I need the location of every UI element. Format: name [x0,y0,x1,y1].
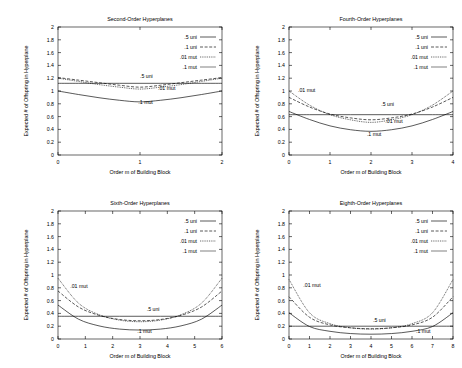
x-tick-label: 1 [329,159,332,165]
plot-frame [58,27,222,155]
x-axis-label: Order m of Building Block [340,353,401,359]
curve-annotation: .5 uni [140,73,153,79]
y-tick-label: 1 [282,88,285,94]
x-axis-label: Order m of Building Block [109,169,170,175]
y-axis-label: Expected # of Offspring in Hyperplane [254,46,260,137]
y-tick-label: 1.8 [278,221,285,227]
x-tick-label: 2 [111,343,114,349]
legend-label: .5 uni [184,218,197,224]
y-tick-label: 0.6 [278,298,285,304]
y-tick-label: 0 [51,152,54,158]
y-tick-label: 1.2 [47,75,54,81]
x-axis-label: Order m of Building Block [109,353,170,359]
panel-eighth-order: Eighth-Order Hyperplanes00.20.40.60.811.… [231,184,462,368]
legend-label: .1 mut [414,64,429,70]
x-tick-label: 4 [166,343,169,349]
chart-title: Fourth-Order Hyperplanes [340,16,403,22]
x-tick-label: 4 [452,159,455,165]
x-tick-label: 1 [139,159,142,165]
plot-frame [58,211,222,339]
curve-annotation: .1 mut [138,99,153,105]
legend-label: .1 uni [184,44,197,50]
y-tick-label: 2 [51,24,54,30]
curve-annotation: .01 mut [70,283,88,289]
x-tick-label: 8 [452,343,455,349]
curve-annotation: .5 uni [147,306,160,312]
y-tick-label: 0.4 [47,310,54,316]
legend-label: .01 mut [411,238,429,244]
series-line [289,97,453,119]
figure-multi-panel-chart: Second-Order Hyperplanes00.20.40.60.811.… [0,0,462,368]
y-tick-label: 0 [282,336,285,342]
x-tick-label: 6 [221,343,224,349]
y-tick-label: 2 [51,208,54,214]
y-tick-label: 0 [51,336,54,342]
y-tick-label: 1 [51,272,54,278]
y-tick-label: 0.6 [47,114,54,120]
legend-label: .01 mut [411,54,429,60]
y-tick-label: 1.4 [278,62,285,68]
series-line [289,91,453,122]
x-tick-label: 0 [57,343,60,349]
x-tick-label: 5 [193,343,196,349]
legend-label: .5 uni [415,34,428,40]
x-tick-label: 3 [349,343,352,349]
y-tick-label: 2 [282,208,285,214]
y-tick-label: 0.8 [278,101,285,107]
legend-label: .5 uni [415,218,428,224]
y-tick-label: 1.4 [47,62,54,68]
y-tick-label: 1.6 [47,234,54,240]
x-tick-label: 6 [411,343,414,349]
panel-fourth-order: Fourth-Order Hyperplanes00.20.40.60.811.… [231,0,462,184]
x-tick-label: 1 [84,343,87,349]
series-line [58,305,222,330]
y-tick-label: 0.2 [278,323,285,329]
y-tick-label: 0.4 [47,126,54,132]
legend-label: .1 mut [183,248,198,254]
y-tick-label: 1.2 [278,259,285,265]
chart-svg: Sixth-Order Hyperplanes00.20.40.60.811.2… [0,184,231,368]
y-tick-label: 1.4 [47,246,54,252]
y-tick-label: 0.4 [278,126,285,132]
x-tick-label: 3 [139,343,142,349]
curve-annotation: .1 mut [416,328,431,334]
y-tick-label: 1.4 [278,246,285,252]
curve-annotation: .5 uni [373,317,386,323]
curve-annotation: .1 mut [367,131,382,137]
x-tick-label: 4 [370,343,373,349]
chart-svg: Eighth-Order Hyperplanes00.20.40.60.811.… [231,184,462,368]
x-tick-label: 0 [288,343,291,349]
y-tick-label: 0.6 [278,114,285,120]
y-tick-label: 0.8 [47,101,54,107]
series-line [289,297,453,329]
y-axis-label: Expected # of Offspring in Hyperplane [254,230,260,321]
curve-annotation: .01 mut [303,282,321,288]
y-tick-label: 1.8 [47,37,54,43]
legend-label: .01 mut [180,54,198,60]
chart-title: Sixth-Order Hyperplanes [110,200,170,206]
chart-title: Second-Order Hyperplanes [107,16,173,22]
x-tick-label: 5 [390,343,393,349]
curve-annotation: .1 mut [137,328,152,334]
legend-label: .1 mut [414,248,429,254]
y-tick-label: 0.2 [278,139,285,145]
chart-svg: Second-Order Hyperplanes00.20.40.60.811.… [0,0,231,184]
x-tick-label: 2 [221,159,224,165]
curve-annotation: .01 mut [385,118,403,124]
x-tick-label: 2 [329,343,332,349]
y-tick-label: 1.2 [278,75,285,81]
y-tick-label: 1 [51,88,54,94]
y-tick-label: 0.8 [47,285,54,291]
y-tick-label: 0.2 [47,323,54,329]
y-tick-label: 2 [282,24,285,30]
legend-label: .1 uni [415,44,428,50]
curve-annotation: .01 mut [158,85,176,91]
y-tick-label: 0.8 [278,285,285,291]
y-tick-label: 1.6 [278,50,285,56]
y-tick-label: 0.4 [278,310,285,316]
y-tick-label: 1 [282,272,285,278]
x-tick-label: 0 [288,159,291,165]
y-tick-label: 1.2 [47,259,54,265]
x-axis-label: Order m of Building Block [340,169,401,175]
y-tick-label: 1.8 [278,37,285,43]
